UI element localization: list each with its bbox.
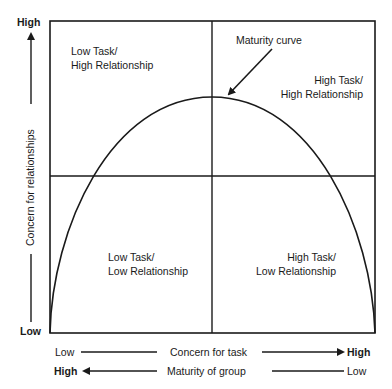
task-axis-high-label: High	[347, 346, 370, 359]
y-axis-title: Concern for relationships	[24, 129, 36, 246]
diagram-graphics	[0, 0, 392, 389]
task-axis-low-label: Low	[55, 346, 74, 359]
quadrant-label-line: High Relationship	[270, 87, 363, 101]
maturity-axis-low-label: Low	[347, 365, 366, 378]
quadrant-label-line: High Task/	[270, 73, 363, 87]
quadrant-label-line: Low Relationship	[108, 264, 188, 278]
annotation-arrow	[229, 49, 272, 94]
task-axis-title: Concern for task	[170, 346, 247, 359]
quadrant-label-line: Low Task/	[108, 250, 188, 264]
maturity-axis-high-label: High	[54, 365, 77, 378]
quadrant-bottom-right: High Task/ Low Relationship	[240, 250, 336, 278]
quadrant-label-line: Low Relationship	[240, 264, 336, 278]
quadrant-label-line: High Relationship	[71, 58, 153, 72]
quadrant-top-left: Low Task/ High Relationship	[71, 44, 153, 72]
maturity-axis-title: Maturity of group	[167, 365, 246, 378]
quadrant-bottom-left: Low Task/ Low Relationship	[108, 250, 188, 278]
quadrant-label-line: High Task/	[240, 250, 336, 264]
quadrant-label-line: Low Task/	[71, 44, 153, 58]
maturity-curve-annotation: Maturity curve	[236, 34, 302, 47]
quadrant-top-right: High Task/ High Relationship	[270, 73, 363, 101]
y-axis-low-label: Low	[20, 325, 41, 338]
y-axis-high-label: High	[17, 16, 40, 29]
